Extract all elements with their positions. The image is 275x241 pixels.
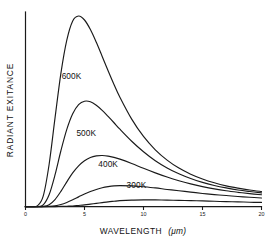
curve-label-500k: 500K [76,128,96,138]
x-tick-label: 5 [83,211,86,217]
x-tick-label: 15 [200,211,206,217]
blackbody-radiation-chart: 05101520 700K 600K 500K 400K 300K WAVELE… [0,0,275,241]
x-tick-label: 0 [24,211,27,217]
x-tick-label: 20 [259,211,265,217]
axis-titles-group: WAVELENGTH (μm) RADIANT EXITANCE [5,63,186,236]
axes-group [25,12,262,207]
y-axis-title: RADIANT EXITANCE [5,63,15,158]
x-axis-ticks: 05101520 [24,207,265,218]
curve-700k [26,16,262,207]
curve-label-600k: 600K [62,71,82,81]
curve-label-400k: 400K [98,159,118,169]
chart-figure: 05101520 700K 600K 500K 400K 300K WAVELE… [0,0,275,241]
x-axis-title: WAVELENGTH (μm) [100,226,186,236]
x-axis-title-unit: (μm) [168,226,186,236]
curve-300k [26,200,262,207]
x-tick-label: 10 [141,211,147,217]
curves-group [26,16,262,207]
curve-label-300k: 300K [127,180,147,190]
x-axis-title-text: WAVELENGTH [100,226,162,236]
curve-labels-group: 700K 600K 500K 400K 300K [52,0,146,190]
